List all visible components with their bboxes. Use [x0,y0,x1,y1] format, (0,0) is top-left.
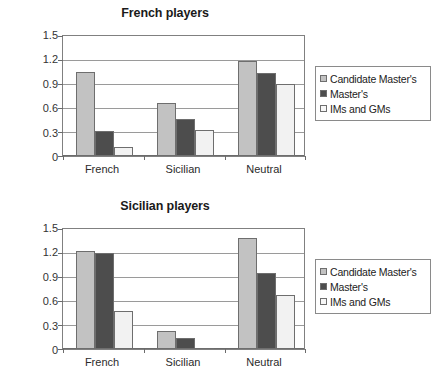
legend-swatch-icon [320,75,327,82]
legend-item-ims-and-gms[interactable]: IMs and GMs [320,101,427,116]
legend-swatch-icon [320,283,327,290]
x-tick-mark [225,349,226,353]
x-category-label-neutral: Neutral [229,356,299,368]
legend-label: Candidate Master's [330,73,417,85]
bar-group-sicilian [157,36,214,156]
legend: Candidate Master's Master's IMs and GMs [315,66,431,121]
y-axis-tick-labels: 1.5 1.2 0.9 0.6 0.3 0 [26,228,58,350]
legend-swatch-icon [320,298,327,305]
y-tick-label: 0.9 [30,78,58,90]
plot-area [62,228,305,350]
bar-masters[interactable] [176,119,195,156]
y-tick-mark [58,84,63,85]
y-tick-label: 0.9 [30,271,58,283]
chart-title: French players [0,6,330,20]
y-tick-mark [58,132,63,133]
bar-candidate-masters[interactable] [157,331,176,349]
x-tick-mark [63,349,64,353]
legend-swatch-icon [320,105,327,112]
y-tick-mark [58,253,63,254]
y-tick-mark [58,60,63,61]
bar-group-french [76,36,133,156]
y-tick-label: 0.6 [30,102,58,114]
chart-sicilian-players: Sicilian players Deviation 1.5 1.2 0.9 0… [0,193,438,386]
x-category-label-sicilian: Sicilian [148,163,218,175]
bar-ims-and-gms[interactable] [114,147,133,156]
legend: Candidate Master's Master's IMs and GMs [315,259,431,314]
bar-masters[interactable] [95,253,114,349]
x-category-label-french: French [67,356,137,368]
bar-candidate-masters[interactable] [238,238,257,349]
x-tick-mark [305,349,306,353]
y-tick-label: 1.5 [30,222,58,234]
bar-group-sicilian [157,229,214,349]
legend-item-masters[interactable]: Master's [320,86,427,101]
legend-label: IMs and GMs [330,296,390,308]
chart-title: Sicilian players [0,199,330,213]
y-tick-label: 0 [30,344,58,356]
bar-ims-and-gms[interactable] [195,130,214,156]
y-tick-mark [58,36,63,37]
legend-item-candidate-masters[interactable]: Candidate Master's [320,264,427,279]
bar-candidate-masters[interactable] [157,103,176,156]
y-tick-label: 1.2 [30,53,58,65]
y-tick-mark [58,108,63,109]
bar-ims-and-gms[interactable] [195,348,214,349]
bar-group-neutral [238,36,295,156]
bar-masters[interactable] [176,338,195,349]
legend-item-candidate-masters[interactable]: Candidate Master's [320,71,427,86]
legend-label: Master's [330,88,368,100]
y-tick-label: 1.2 [30,246,58,258]
x-tick-mark [144,156,145,160]
y-tick-mark [58,325,63,326]
bar-ims-and-gms[interactable] [114,311,133,349]
x-category-label-french: French [67,163,137,175]
x-tick-mark [144,349,145,353]
y-tick-mark [58,277,63,278]
legend-item-ims-and-gms[interactable]: IMs and GMs [320,294,427,309]
bar-masters[interactable] [257,73,276,156]
y-tick-label: 0.6 [30,295,58,307]
y-tick-label: 1.5 [30,29,58,41]
bar-masters[interactable] [257,273,276,349]
x-category-label-neutral: Neutral [229,163,299,175]
bar-group-french [76,229,133,349]
legend-swatch-icon [320,90,327,97]
bar-ims-and-gms[interactable] [276,84,295,156]
y-tick-label: 0 [30,151,58,163]
y-tick-label: 0.3 [30,320,58,332]
y-axis-tick-labels: 1.5 1.2 0.9 0.6 0.3 0 [26,35,58,157]
bar-group-neutral [238,229,295,349]
legend-item-masters[interactable]: Master's [320,279,427,294]
x-tick-mark [305,156,306,160]
legend-label: IMs and GMs [330,103,390,115]
legend-label: Master's [330,281,368,293]
plot-area [62,35,305,157]
chart-french-players: French players Deviation 1.5 1.2 0.9 0.6… [0,0,438,193]
legend-swatch-icon [320,268,327,275]
x-category-label-sicilian: Sicilian [148,356,218,368]
bar-ims-and-gms[interactable] [276,295,295,349]
legend-label: Candidate Master's [330,266,417,278]
bar-candidate-masters[interactable] [238,61,257,156]
x-tick-mark [225,156,226,160]
bar-masters[interactable] [95,131,114,156]
bar-candidate-masters[interactable] [76,251,95,349]
y-tick-mark [58,301,63,302]
y-tick-mark [58,229,63,230]
y-tick-label: 0.3 [30,127,58,139]
x-tick-mark [63,156,64,160]
bar-candidate-masters[interactable] [76,72,95,156]
